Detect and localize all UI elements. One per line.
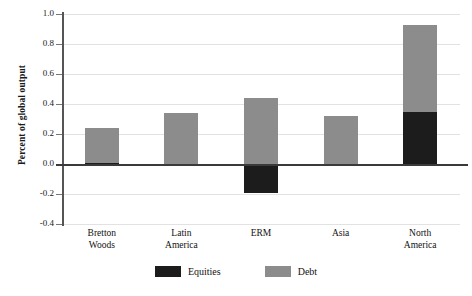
legend-swatch-debt [265, 266, 291, 277]
y-axis-title-text: Percent of global output [17, 65, 27, 165]
bar-segment-debt [85, 128, 119, 163]
bar-segment-debt [403, 25, 437, 112]
legend-label: Debt [298, 266, 317, 277]
bar-segment-debt [324, 116, 358, 164]
x-axis-label-line: ERM [216, 228, 306, 240]
y-axis-tick-label: 0.2 [18, 128, 54, 138]
gridline [62, 224, 460, 225]
legend-item[interactable]: Debt [265, 266, 317, 277]
legend-label: Equities [188, 266, 221, 277]
y-axis-tick-label: 0.0 [18, 158, 54, 168]
x-axis-label-line: Latin [136, 228, 226, 240]
x-axis-labels: BrettonWoodsLatinAmericaERMAsiaNorthAmer… [62, 228, 460, 262]
y-axis-tick-label: 0.6 [18, 68, 54, 78]
x-axis-label-line: Woods [57, 240, 147, 252]
legend-item[interactable]: Equities [155, 266, 221, 277]
bar-group [244, 14, 278, 224]
y-axis-tick-label: -0.2 [18, 188, 54, 198]
x-axis-label-line: North [375, 228, 465, 240]
bar-segment-debt [244, 98, 278, 164]
y-axis-spine [62, 12, 64, 226]
chart-legend: EquitiesDebt [0, 266, 472, 277]
bar-group [324, 14, 358, 224]
bar-segment-equities [244, 164, 278, 193]
bar-segment-debt [164, 113, 198, 164]
y-axis-tick-label: 1.0 [18, 8, 54, 18]
chart-root: Percent of global output 1.00.80.60.40.2… [0, 0, 472, 296]
y-axis-tick-label: 0.4 [18, 98, 54, 108]
x-axis-label-line: America [375, 240, 465, 252]
x-axis-label: Asia [296, 228, 386, 240]
x-axis-label: NorthAmerica [375, 228, 465, 251]
y-axis-tick-label: 0.8 [18, 38, 54, 48]
x-axis-label: ERM [216, 228, 306, 240]
bar-group [164, 14, 198, 224]
x-axis-label-line: Bretton [57, 228, 147, 240]
plot-area [62, 14, 460, 224]
bar-segment-equities [403, 112, 437, 165]
legend-swatch-equities [155, 266, 181, 277]
x-axis-label: LatinAmerica [136, 228, 226, 251]
y-axis-tick-label: -0.4 [18, 218, 54, 228]
bar-group [85, 14, 119, 224]
zero-baseline [56, 164, 468, 166]
bar-group [403, 14, 437, 224]
x-axis-label: BrettonWoods [57, 228, 147, 251]
x-axis-label-line: Asia [296, 228, 386, 240]
x-axis-label-line: America [136, 240, 226, 252]
